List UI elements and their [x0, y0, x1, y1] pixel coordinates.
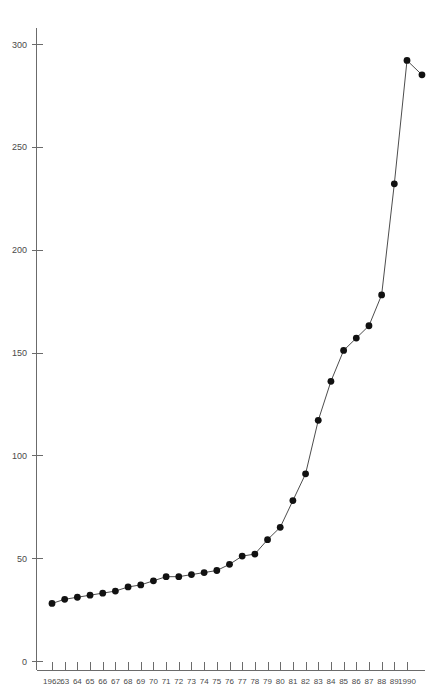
data-point — [353, 335, 360, 342]
x-axis-tick-label: 79 — [263, 677, 272, 686]
y-axis-tick-label: 100 — [12, 451, 27, 461]
series-line — [52, 60, 422, 603]
data-point — [49, 600, 56, 607]
x-axis-tick-label: 75 — [212, 677, 221, 686]
x-axis-tick-label: 65 — [86, 677, 95, 686]
data-point — [87, 592, 94, 599]
data-point — [239, 553, 246, 560]
x-axis-tick-label: 81 — [288, 677, 297, 686]
data-point — [366, 322, 373, 329]
x-axis-tick-label: 1962 — [43, 677, 61, 686]
x-axis-tick-label: 72 — [174, 677, 183, 686]
y-axis-tick-label: 150 — [12, 348, 27, 358]
data-point — [74, 594, 81, 601]
y-axis-tick-label: 50 — [17, 554, 27, 564]
x-axis: 1962636465666768697071727374757677787980… — [37, 662, 426, 686]
data-point — [137, 582, 144, 589]
x-axis-tick-label: 73 — [187, 677, 196, 686]
x-axis-tick-label: 85 — [339, 677, 348, 686]
data-point — [201, 569, 208, 576]
data-point — [226, 561, 233, 568]
x-axis-tick-label: 74 — [200, 677, 209, 686]
x-axis-tick-label: 86 — [352, 677, 361, 686]
data-point — [188, 571, 195, 578]
x-axis-tick-label: 71 — [162, 677, 171, 686]
data-point — [277, 524, 284, 531]
x-axis-tick-label: 83 — [314, 677, 323, 686]
data-series — [49, 57, 426, 607]
y-axis: 050100150200250300 — [12, 28, 43, 670]
x-axis-tick-label: 84 — [326, 677, 335, 686]
x-axis-tick-label: 66 — [98, 677, 107, 686]
y-axis-tick-label: 200 — [12, 245, 27, 255]
y-axis-tick-label: 0 — [22, 657, 27, 667]
x-axis-tick-label: 78 — [250, 677, 259, 686]
x-axis-tick-label: 1990 — [398, 677, 416, 686]
data-point — [289, 497, 296, 504]
x-axis-tick-label: 67 — [111, 677, 120, 686]
data-point — [315, 417, 322, 424]
data-point — [112, 588, 119, 595]
x-axis-tick-label: 63 — [60, 677, 69, 686]
data-point — [328, 378, 335, 385]
data-point — [125, 584, 132, 591]
data-point — [213, 567, 220, 574]
x-axis-tick-label: 82 — [301, 677, 310, 686]
data-point — [391, 180, 398, 187]
y-axis-tick-label: 250 — [12, 142, 27, 152]
x-axis-tick-label: 76 — [225, 677, 234, 686]
data-point — [99, 590, 106, 597]
data-point — [150, 577, 157, 584]
x-axis-tick-label: 80 — [276, 677, 285, 686]
x-axis-tick-label: 70 — [149, 677, 158, 686]
data-point — [61, 596, 68, 603]
data-point — [340, 347, 347, 354]
x-axis-tick-label: 77 — [238, 677, 247, 686]
data-point — [175, 573, 182, 580]
x-axis-tick-label: 88 — [377, 677, 386, 686]
data-point — [404, 57, 411, 64]
data-point — [163, 573, 170, 580]
chart-container: 050100150200250300 196263646566676869707… — [0, 0, 446, 700]
y-axis-tick-label: 300 — [12, 40, 27, 50]
x-axis-tick-label: 64 — [73, 677, 82, 686]
x-axis-tick-label: 68 — [124, 677, 133, 686]
data-point — [378, 292, 385, 299]
data-point — [419, 71, 426, 78]
data-point — [302, 470, 309, 477]
x-axis-tick-label: 87 — [365, 677, 374, 686]
data-point — [264, 536, 271, 543]
x-axis-tick-label: 69 — [136, 677, 145, 686]
line-chart: 050100150200250300 196263646566676869707… — [0, 0, 446, 700]
data-point — [251, 551, 258, 558]
